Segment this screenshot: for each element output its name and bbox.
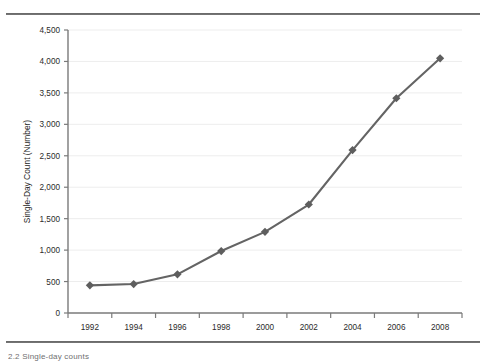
x-tick-label: 1994 — [125, 323, 144, 332]
y-tick-label: 2,500 — [40, 152, 61, 161]
y-tick-label: 500 — [46, 278, 60, 287]
top-divider-rule — [6, 13, 480, 15]
x-tick-label: 1992 — [81, 323, 100, 332]
data-point-marker — [217, 247, 225, 255]
gridlines-group — [68, 30, 462, 282]
x-tick-label: 2000 — [256, 323, 275, 332]
y-tick-labels-group: 05001,0001,5002,0002,5003,0003,5004,0004… — [40, 26, 61, 318]
line-chart: 05001,0001,5002,0002,5003,0003,5004,0004… — [0, 18, 484, 340]
x-tick-label: 2008 — [431, 323, 450, 332]
y-tick-label: 1,000 — [40, 246, 61, 255]
y-tick-label: 3,000 — [40, 120, 61, 129]
x-tick-label: 2006 — [387, 323, 406, 332]
y-tick-label: 1,500 — [40, 215, 61, 224]
y-tick-label: 3,500 — [40, 89, 61, 98]
y-axis-title: Single-Day Count (Number) — [22, 120, 32, 224]
data-point-markers-group — [86, 54, 444, 289]
x-tick-marks-group — [68, 313, 462, 318]
figure-caption: 2.2 Single-day counts — [8, 352, 478, 362]
data-point-marker — [86, 281, 94, 289]
y-tick-label: 2,000 — [40, 183, 61, 192]
x-tick-label: 2004 — [343, 323, 362, 332]
data-series-line — [90, 58, 440, 285]
figure-container: 05001,0001,5002,0002,5003,0003,5004,0004… — [0, 0, 484, 362]
bottom-divider-rule — [6, 341, 480, 343]
x-tick-labels-group: 199219941996199820002002200420062008 — [81, 323, 450, 332]
chart-canvas: 05001,0001,5002,0002,5003,0003,5004,0004… — [0, 18, 484, 340]
y-tick-label: 4,500 — [40, 26, 61, 35]
x-tick-label: 1998 — [212, 323, 231, 332]
y-tick-label: 4,000 — [40, 57, 61, 66]
x-tick-label: 1996 — [168, 323, 187, 332]
data-point-marker — [173, 270, 181, 278]
y-tick-label: 0 — [55, 309, 60, 318]
x-tick-label: 2002 — [300, 323, 319, 332]
